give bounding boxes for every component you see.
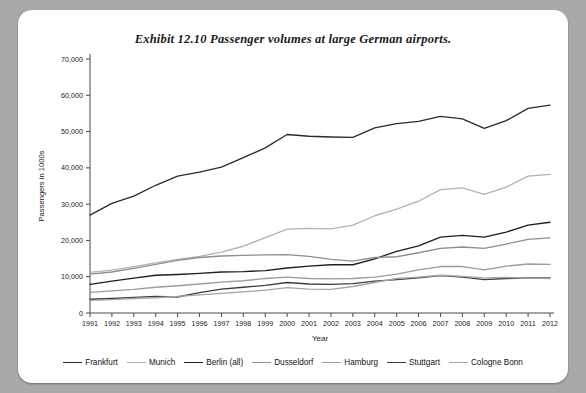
legend-swatch-icon (449, 362, 468, 363)
legend-swatch-icon (184, 362, 203, 363)
svg-text:1999: 1999 (257, 319, 273, 328)
svg-text:2003: 2003 (345, 319, 361, 328)
legend-item-frankfurt[interactable]: Frankfurt (63, 358, 118, 367)
svg-text:60,000: 60,000 (61, 91, 83, 100)
svg-text:2007: 2007 (432, 319, 448, 328)
svg-text:1996: 1996 (192, 319, 208, 328)
line-chart-svg: 010,00020,00030,00040,00050,00060,00070,… (18, 10, 568, 383)
legend-item-cologne-bonn[interactable]: Cologne Bonn (449, 358, 523, 367)
svg-text:2011: 2011 (520, 319, 535, 328)
svg-text:2012: 2012 (542, 319, 558, 328)
svg-text:70,000: 70,000 (61, 55, 83, 64)
svg-text:1994: 1994 (148, 319, 164, 328)
chart-legend: FrankfurtMunichBerlin (all)DusseldorfHam… (28, 358, 558, 367)
legend-label: Cologne Bonn (471, 358, 523, 367)
y-axis-title: Passengers in 1000s (37, 150, 46, 221)
svg-text:2009: 2009 (476, 319, 492, 328)
svg-text:0: 0 (79, 309, 83, 318)
svg-text:1997: 1997 (213, 319, 229, 328)
x-axis-title: Year (312, 334, 329, 343)
plot-area: 010,00020,00030,00040,00050,00060,00070,… (18, 10, 568, 383)
svg-text:10,000: 10,000 (61, 272, 83, 281)
legend-item-berlin-all[interactable]: Berlin (all) (184, 358, 243, 367)
svg-text:2001: 2001 (301, 319, 317, 328)
svg-text:50,000: 50,000 (61, 127, 83, 136)
legend-label: Munich (149, 358, 175, 367)
svg-text:40,000: 40,000 (61, 163, 83, 172)
svg-text:2010: 2010 (498, 319, 514, 328)
legend-label: Berlin (all) (206, 358, 243, 367)
svg-text:1993: 1993 (126, 319, 142, 328)
svg-text:1992: 1992 (104, 319, 120, 328)
legend-label: Stuttgart (409, 358, 440, 367)
svg-text:2005: 2005 (389, 319, 405, 328)
legend-label: Hamburg (344, 358, 378, 367)
legend-label: Dusseldorf (274, 358, 313, 367)
y-axis: 010,00020,00030,00040,00050,00060,00070,… (61, 54, 90, 318)
legend-item-stuttgart[interactable]: Stuttgart (387, 358, 440, 367)
svg-text:2004: 2004 (367, 319, 383, 328)
svg-text:2008: 2008 (454, 319, 470, 328)
svg-text:1991: 1991 (82, 319, 98, 328)
series-line-berlin-all (90, 222, 550, 284)
legend-item-dusseldorf[interactable]: Dusseldorf (252, 358, 313, 367)
svg-text:1998: 1998 (235, 319, 251, 328)
x-axis: 1991199219931994199519961997199819992000… (82, 313, 558, 328)
legend-swatch-icon (252, 362, 271, 363)
legend-swatch-icon (127, 362, 146, 363)
series-lines (90, 105, 550, 300)
svg-text:2002: 2002 (323, 319, 339, 328)
legend-swatch-icon (387, 362, 406, 363)
svg-text:1995: 1995 (170, 319, 186, 328)
legend-item-munich[interactable]: Munich (127, 358, 175, 367)
svg-text:30,000: 30,000 (61, 200, 83, 209)
svg-text:2006: 2006 (411, 319, 427, 328)
svg-text:20,000: 20,000 (61, 236, 83, 245)
series-line-frankfurt (90, 105, 550, 215)
svg-text:2000: 2000 (279, 319, 295, 328)
legend-label: Frankfurt (85, 358, 118, 367)
legend-swatch-icon (322, 362, 341, 363)
chart-card: Exhibit 12.10 Passenger volumes at large… (18, 10, 568, 383)
legend-item-hamburg[interactable]: Hamburg (322, 358, 378, 367)
legend-swatch-icon (63, 362, 82, 363)
